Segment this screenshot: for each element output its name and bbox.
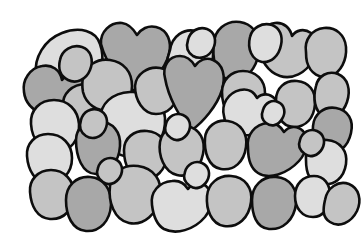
grain-shape: bottom-right dark pebble (252, 177, 296, 229)
grain-shape: center-right lower medium pebble (205, 121, 246, 170)
aggregate-texture-figure: top-left light pebbletop heart-shaped da… (0, 0, 363, 248)
grain-shape: top-right light pebble (249, 24, 281, 62)
grain-shape: lower-left medium sliver (97, 158, 122, 184)
grain-shape: center small light sliver (165, 114, 190, 140)
grain-shape: mid-left medium sliver (80, 109, 107, 138)
grain-shape: bottom-center-right medium pebble (207, 176, 251, 226)
grain-shape: right small light sliver (262, 101, 285, 125)
grain-shape: lower-center light sliver (184, 162, 209, 188)
grain-shape: top light sliver between grains (187, 28, 215, 58)
grain-packing-canvas: top-left light pebbletop heart-shaped da… (0, 0, 363, 248)
grain-shape: far-top-right medium pebble (306, 28, 346, 77)
grain-shape: right edge medium sliver (299, 130, 324, 156)
grain-shape: bottom-left dark pebble (66, 177, 111, 231)
grain-shape: upper-left boundary medium sliver (59, 46, 91, 81)
